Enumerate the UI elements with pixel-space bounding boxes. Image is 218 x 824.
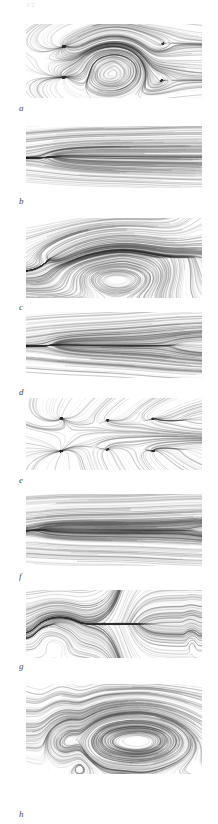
panel-b-streamlines: nearly horizontal parallel streamlines a… — [26, 126, 202, 188]
figure-corner-mark: F2 — [27, 2, 35, 8]
panel-h-streamlines: nested hairpin loops: stacked closed con… — [26, 684, 202, 774]
panel-b: nearly horizontal parallel streamlines a… — [26, 126, 202, 188]
panel-c: large rounded-rectangle recirculation en… — [26, 218, 202, 298]
panel-a-streamlines: symmetric pair of spiral saddle nodes at… — [26, 24, 202, 98]
panel-h: nested hairpin loops: stacked closed con… — [26, 684, 202, 774]
panel-label-g: g — [19, 662, 24, 671]
panel-e-streamlines: six scattered star-shaped critical point… — [26, 398, 202, 470]
panel-label-d: d — [19, 388, 24, 397]
panel-a: symmetric pair of spiral saddle nodes at… — [26, 24, 202, 98]
panel-label-b: b — [19, 197, 24, 206]
panel-e: six scattered star-shaped critical point… — [26, 398, 202, 470]
panel-label-h: h — [19, 810, 24, 819]
panel-label-f: f — [19, 572, 22, 581]
panel-f-streamlines: dense fan convergence at left edge sprea… — [26, 494, 202, 566]
panel-d-streamlines: two radial star nodes, one at left quart… — [26, 312, 202, 378]
panel-c-streamlines: large rounded-rectangle recirculation en… — [26, 218, 202, 298]
panel-label-e: e — [19, 476, 23, 485]
panel-d: two radial star nodes, one at left quart… — [26, 312, 202, 378]
panel-label-a: a — [19, 104, 24, 113]
panel-g-streamlines: closed lobed pocket at left with small c… — [26, 590, 202, 658]
panel-label-c: c — [19, 303, 23, 312]
panel-g: closed lobed pocket at left with small c… — [26, 590, 202, 658]
figure-container: F2 symmetric pair of spiral saddle nodes… — [0, 0, 218, 824]
panel-f: dense fan convergence at left edge sprea… — [26, 494, 202, 566]
